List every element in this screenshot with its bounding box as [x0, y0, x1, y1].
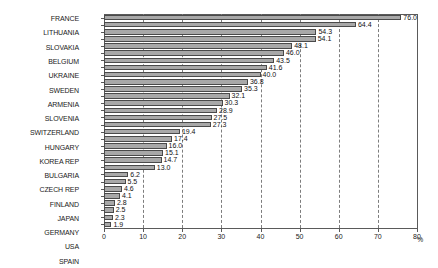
bar-value-label: 13.0	[157, 164, 171, 171]
x-tick-label: 40	[257, 233, 265, 240]
bar	[104, 79, 248, 85]
bar-value-label: 48.1	[294, 42, 308, 49]
x-tick-label: 0	[102, 233, 106, 240]
bar-value-label: 19.4	[182, 128, 196, 135]
bar-value-label: 14.7	[164, 156, 178, 163]
bar	[104, 207, 114, 213]
bar-row: 27.5JAPAN	[104, 115, 417, 121]
bar-value-label: 1.9	[113, 221, 123, 228]
category-label: JAPAN	[57, 215, 79, 222]
category-label: CZECH REP	[39, 186, 79, 193]
bar-row: 14.7CANADA	[104, 157, 417, 163]
bar-row: 2.8BRAZIL	[104, 200, 417, 206]
x-tick	[143, 228, 144, 232]
bar-row: 30.3CZECH REP	[104, 100, 417, 106]
bar-value-label: 46.0	[286, 49, 300, 56]
bar-row: 32.1BULGARIA	[104, 93, 417, 99]
bar-row: 5.5SOUTH AFRICA	[104, 179, 417, 185]
category-tick	[101, 217, 104, 218]
category-tick	[101, 32, 104, 33]
bar-row: 2.3PAKISTAN	[104, 215, 417, 221]
bar-value-label: 76.0	[403, 14, 417, 21]
bar-row: 35.3KOREA REP	[104, 86, 417, 92]
category-label: USA	[65, 243, 79, 250]
bar-row: 43.5ARMENIA	[104, 58, 417, 64]
category-label: SWITZERLAND	[30, 129, 79, 136]
bar-row: 64.4LITHUANIA	[104, 22, 417, 28]
bar	[104, 22, 356, 28]
bar-row: 28.9FINLAND	[104, 108, 417, 114]
bar-value-label: 32.1	[232, 92, 246, 99]
category-tick	[101, 203, 104, 204]
bar	[104, 65, 267, 71]
bar	[104, 165, 155, 171]
axis-right-line	[417, 14, 418, 228]
bar	[104, 43, 292, 49]
bar-row: 4.1NETHERLANDS	[104, 193, 417, 199]
bar-row: 27.3GERMANY	[104, 122, 417, 128]
category-label: SLOVENIA	[45, 115, 79, 122]
category-tick	[101, 167, 104, 168]
x-tick-label: 30	[217, 233, 225, 240]
bar-value-label: 30.3	[225, 99, 239, 106]
category-label: SPAIN	[59, 258, 79, 265]
category-tick	[101, 110, 104, 111]
bar-value-label: 16.0	[169, 142, 183, 149]
bar	[104, 136, 172, 142]
bar	[104, 193, 120, 199]
bar-value-label: 4.6	[124, 185, 134, 192]
bar-value-label: 36.8	[250, 78, 264, 85]
bar-value-label: 64.4	[358, 21, 372, 28]
bar	[104, 215, 113, 221]
bar	[104, 150, 163, 156]
bar-value-label: 5.5	[128, 178, 138, 185]
bar-row: 15.1UK	[104, 150, 417, 156]
bar	[104, 100, 223, 106]
category-tick	[101, 182, 104, 183]
category-tick	[101, 46, 104, 47]
category-label: FRANCE	[51, 15, 79, 22]
category-tick	[101, 18, 104, 19]
category-tick	[101, 75, 104, 76]
category-tick	[101, 82, 104, 83]
category-label: ARMENIA	[48, 101, 79, 108]
plot-area: 76.0FRANCE64.4LITHUANIA54.3SLOVAKIA54.1B…	[104, 14, 417, 228]
bar	[104, 222, 111, 228]
bar-value-label: 54.1	[318, 35, 332, 42]
bar	[104, 115, 212, 121]
category-tick	[101, 117, 104, 118]
x-tick-label: 20	[178, 233, 186, 240]
bar-row: 36.8HUNGARY	[104, 79, 417, 85]
bar	[104, 93, 230, 99]
bar	[104, 186, 122, 192]
x-tick	[378, 228, 379, 232]
bar-value-label: 4.1	[122, 192, 132, 199]
x-tick-label: 60	[335, 233, 343, 240]
bar-row: 17.4SPAIN	[104, 136, 417, 142]
bar-row: 16.0RUSSIA	[104, 143, 417, 149]
bar-row: 13.0ROMANIA	[104, 165, 417, 171]
bar-value-label: 15.1	[165, 149, 179, 156]
bar-row: 4.6MEXICO	[104, 186, 417, 192]
category-label: SWEDEN	[49, 87, 79, 94]
category-tick	[101, 160, 104, 161]
bar	[104, 108, 217, 114]
bar-value-label: 2.8	[117, 199, 127, 206]
category-tick	[101, 153, 104, 154]
bar-value-label: 2.5	[116, 206, 126, 213]
category-label: HUNGARY	[45, 144, 79, 151]
category-tick	[101, 196, 104, 197]
category-label: BULGARIA	[44, 172, 79, 179]
x-tick-label: 70	[374, 233, 382, 240]
bar-value-label: 35.3	[244, 85, 258, 92]
category-tick	[101, 103, 104, 104]
x-tick	[261, 228, 262, 232]
bar-row: 76.0FRANCE	[104, 15, 417, 21]
bar-value-label: 41.6	[269, 64, 283, 71]
category-tick	[101, 67, 104, 68]
bar-row: 2.5INDIA	[104, 207, 417, 213]
bar-value-label: 43.5	[276, 57, 290, 64]
category-label: GERMANY	[44, 229, 79, 236]
category-label: FINLAND	[50, 201, 79, 208]
category-tick	[101, 146, 104, 147]
